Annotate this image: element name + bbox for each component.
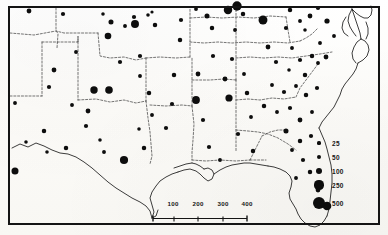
scale-tick-label: 300	[217, 200, 228, 207]
scale-tick-labels: 100200300400	[152, 200, 248, 209]
graduated-symbol-map-figure: 2550100250500 100200300400	[0, 0, 388, 235]
legend-value-label: 250	[332, 182, 344, 189]
legend-symbol-circle	[313, 197, 326, 210]
distance-scale-bar: 100200300400	[152, 200, 248, 227]
scale-bar-graphic	[152, 214, 248, 223]
legend-symbol-slot	[312, 155, 326, 160]
legend-symbol-slot	[312, 168, 326, 175]
scale-tick-label: 400	[241, 200, 252, 207]
legend-symbol-slot	[312, 180, 326, 189]
legend-symbol-circle	[317, 155, 322, 160]
legend-value-label: 25	[332, 140, 340, 147]
scale-tick-label: 200	[192, 200, 203, 207]
legend-symbol-circle	[317, 141, 320, 144]
legend-value-label: 500	[332, 200, 344, 207]
legend-symbol-circle	[316, 168, 323, 175]
legend-symbol-circle	[314, 180, 323, 189]
legend-value-label: 50	[332, 154, 340, 161]
scale-tick-label: 100	[167, 200, 178, 207]
legend-symbol-slot	[312, 141, 326, 144]
legend-symbol-slot	[312, 197, 326, 210]
map-neatline-border	[8, 6, 380, 225]
legend-value-label: 100	[332, 168, 344, 175]
